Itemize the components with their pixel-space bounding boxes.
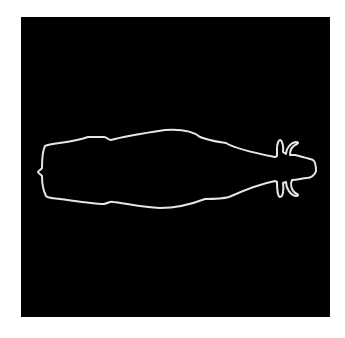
bull-body-outline [38, 130, 316, 208]
bull-outline-icon [0, 0, 345, 338]
